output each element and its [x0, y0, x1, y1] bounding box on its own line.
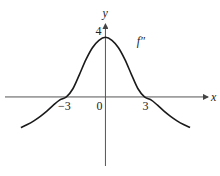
chart: x y −303 4 f″	[0, 0, 220, 176]
x-tick-label: 0	[96, 99, 102, 113]
x-tick-labels: −303	[58, 99, 148, 113]
y-tick-labels: 4	[95, 24, 101, 38]
y-axis-label: y	[101, 6, 108, 20]
x-axis-label: x	[210, 90, 217, 104]
x-tick-label: −3	[58, 99, 71, 113]
series-label: f″	[137, 34, 146, 48]
x-tick-label: 3	[142, 99, 148, 113]
y-tick-label: 4	[95, 24, 101, 38]
